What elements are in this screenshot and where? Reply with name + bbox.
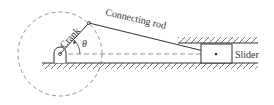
upper-guide-hatch [178, 37, 258, 43]
slider-label: Slider [235, 49, 260, 60]
ground-hatch [42, 63, 258, 69]
angle-label: θ [82, 38, 87, 49]
slider-crank-diagram: Crank θ Connecting rod Slider [0, 0, 274, 105]
connecting-rod-label: Connecting rod [105, 6, 168, 31]
slider-pin [215, 53, 218, 56]
